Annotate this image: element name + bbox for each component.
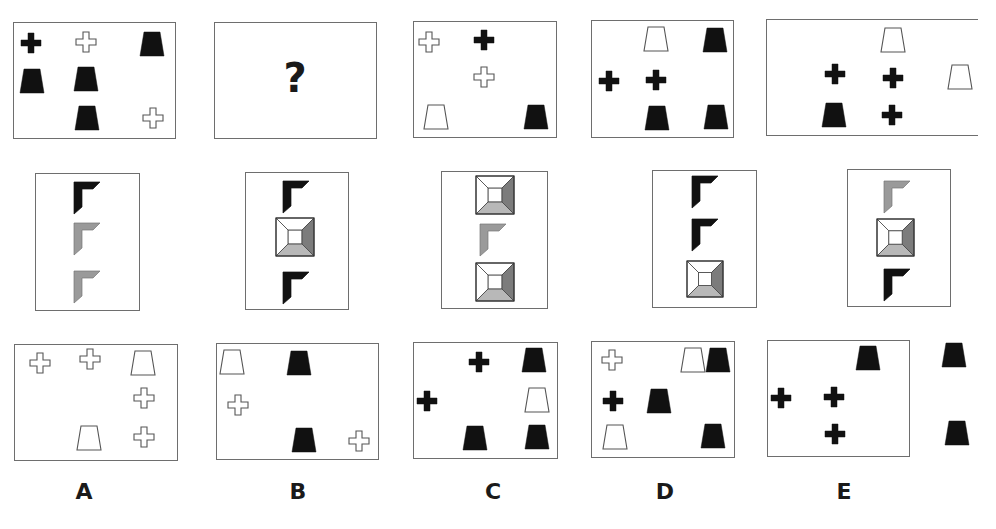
white-trapezoid-icon — [946, 63, 974, 91]
black-trapezoid-icon — [701, 26, 729, 54]
black-trapezoid-icon — [523, 423, 551, 451]
black-trapezoid-icon — [699, 422, 727, 450]
black-cross-icon — [770, 387, 792, 409]
white-cross-icon — [473, 66, 495, 88]
black-cross-icon — [468, 351, 490, 373]
white-trapezoid-icon — [601, 423, 629, 451]
black-trapezoid-icon — [645, 387, 673, 415]
option-label-e[interactable]: E — [824, 479, 864, 504]
pyramid-frame-icon — [876, 218, 915, 257]
black-trapezoid-icon — [520, 346, 548, 374]
black-corner-icon — [282, 180, 310, 214]
black-cross-icon — [602, 390, 624, 412]
white-cross-icon — [75, 31, 97, 53]
white-cross-icon — [133, 426, 155, 448]
black-trapezoid-icon — [285, 349, 313, 377]
gray-corner-icon — [479, 223, 507, 257]
black-trapezoid-icon — [522, 103, 550, 131]
black-cross-icon — [824, 63, 846, 85]
white-cross-icon — [133, 387, 155, 409]
black-trapezoid-icon — [854, 344, 882, 372]
option-label-d[interactable]: D — [645, 479, 685, 504]
black-cross-icon — [473, 29, 495, 51]
white-trapezoid-icon — [679, 346, 707, 374]
pyramid-frame-icon — [275, 217, 315, 257]
white-cross-icon — [227, 394, 249, 416]
black-corner-icon — [73, 181, 101, 215]
black-trapezoid-icon — [704, 346, 732, 374]
white-trapezoid-icon — [218, 348, 246, 376]
pyramid-frame-icon — [686, 260, 724, 298]
pyramid-frame-icon — [475, 175, 515, 215]
black-cross-icon — [20, 32, 42, 54]
black-trapezoid-icon — [702, 103, 730, 131]
black-cross-icon — [416, 390, 438, 412]
gray-corner-icon — [73, 222, 101, 256]
white-cross-icon — [418, 31, 440, 53]
white-trapezoid-icon — [879, 26, 907, 54]
black-cross-icon — [598, 70, 620, 92]
black-trapezoid-icon — [73, 104, 101, 132]
white-trapezoid-icon — [75, 424, 103, 452]
black-trapezoid-icon — [643, 104, 671, 132]
black-trapezoid-icon — [138, 30, 166, 58]
question-mark: ? — [284, 55, 307, 101]
option-label-b[interactable]: B — [278, 479, 318, 504]
black-trapezoid-icon — [943, 419, 971, 447]
black-trapezoid-icon — [820, 101, 848, 129]
black-corner-icon — [691, 175, 719, 209]
option-label-a[interactable]: A — [64, 479, 104, 504]
black-trapezoid-icon — [290, 426, 318, 454]
black-trapezoid-icon — [461, 424, 489, 452]
white-cross-icon — [348, 430, 370, 452]
white-cross-icon — [29, 352, 51, 374]
option-label-c[interactable]: C — [473, 479, 513, 504]
white-cross-icon — [79, 348, 101, 370]
black-cross-icon — [881, 104, 903, 126]
black-trapezoid-icon — [72, 65, 100, 93]
black-corner-icon — [691, 218, 719, 252]
white-trapezoid-icon — [422, 103, 450, 131]
gray-corner-icon — [73, 270, 101, 304]
black-trapezoid-icon — [940, 341, 968, 369]
white-cross-icon — [142, 107, 164, 129]
white-cross-icon — [601, 349, 623, 371]
white-trapezoid-icon — [642, 25, 670, 53]
black-cross-icon — [823, 386, 845, 408]
white-trapezoid-icon — [523, 386, 551, 414]
black-corner-icon — [883, 268, 911, 302]
black-cross-icon — [824, 423, 846, 445]
pyramid-frame-icon — [475, 262, 515, 302]
white-trapezoid-icon — [129, 349, 157, 377]
black-corner-icon — [282, 271, 310, 305]
black-trapezoid-icon — [18, 67, 46, 95]
gray-corner-icon — [883, 180, 911, 214]
black-cross-icon — [882, 67, 904, 89]
black-cross-icon — [645, 69, 667, 91]
